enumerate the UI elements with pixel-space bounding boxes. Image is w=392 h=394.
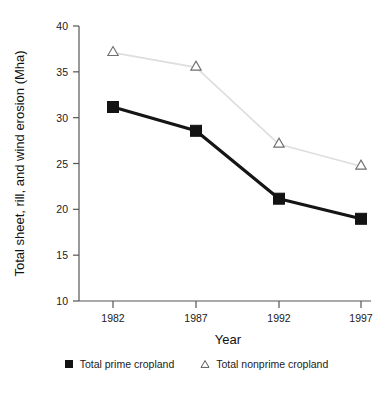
nonprime-marker-1992 [274, 138, 284, 147]
y-tick-label: 35 [56, 66, 68, 78]
prime-marker-1997 [356, 213, 367, 224]
chart-legend: Total prime cropland Total nonprime crop… [0, 358, 392, 370]
prime-marker-1992 [274, 193, 285, 204]
x-axis: 1982 1987 1992 1997 Year [79, 301, 373, 347]
legend-item-nonprime: Total nonprime cropland [200, 358, 328, 370]
nonprime-marker-1987 [191, 61, 201, 70]
open-triangle-icon [200, 359, 210, 369]
x-axis-ticks [113, 301, 361, 308]
x-tick-label: 1997 [349, 312, 373, 324]
filled-square-icon [64, 359, 74, 369]
y-tick-label: 15 [56, 249, 68, 261]
x-axis-title: Year [215, 332, 242, 347]
prime-marker-1982 [108, 102, 119, 113]
y-axis: 40 35 30 25 20 15 10 Total sheet, rill, … [12, 20, 79, 307]
plot-area: 40 35 30 25 20 15 10 Total sheet, rill, … [0, 0, 392, 394]
y-axis-ticks [73, 26, 79, 301]
nonprime-marker-1982 [108, 47, 118, 56]
y-tick-label: 25 [56, 158, 68, 170]
erosion-line-chart: 40 35 30 25 20 15 10 Total sheet, rill, … [0, 0, 392, 394]
y-tick-label: 30 [56, 112, 68, 124]
y-tick-label: 40 [56, 20, 68, 32]
x-tick-label: 1987 [184, 312, 208, 324]
y-axis-title: Total sheet, rill, and wind erosion (Mha… [12, 50, 27, 276]
legend-item-prime: Total prime cropland [64, 358, 175, 370]
legend-label-prime: Total prime cropland [80, 358, 175, 370]
series-prime [108, 102, 367, 225]
series-nonprime [108, 47, 366, 170]
x-tick-label: 1982 [101, 312, 125, 324]
prime-marker-1987 [191, 125, 202, 136]
x-tick-label: 1992 [267, 312, 291, 324]
legend-label-nonprime: Total nonprime cropland [216, 358, 328, 370]
nonprime-line [113, 53, 361, 167]
y-tick-label: 20 [56, 203, 68, 215]
prime-line [113, 107, 361, 219]
y-tick-label: 10 [56, 295, 68, 307]
